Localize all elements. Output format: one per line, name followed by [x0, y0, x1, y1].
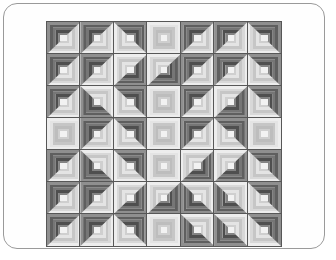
quilt-block-center [127, 99, 134, 105]
quilt-block-center [194, 195, 201, 201]
quilt-block-center [60, 99, 67, 105]
quilt-block [80, 54, 113, 86]
quilt-block [80, 182, 113, 214]
quilt-block [147, 54, 180, 86]
quilt-block-center [127, 195, 134, 201]
quilt-block-center [60, 35, 67, 41]
quilt-block-center [194, 67, 201, 73]
quilt-block [248, 118, 281, 150]
quilt-block-center [127, 35, 134, 41]
quilt-block [47, 86, 80, 118]
quilt-block [147, 150, 180, 182]
quilt-block [214, 182, 247, 214]
quilt-block-center [194, 163, 201, 169]
quilt-block [147, 214, 180, 246]
quilt-block-center [94, 131, 101, 137]
quilt-block-center [161, 227, 168, 233]
quilt-block-center [94, 163, 101, 169]
quilt-block [114, 54, 147, 86]
quilt-block [80, 150, 113, 182]
quilt-block-center [261, 163, 268, 169]
quilt-block-center [228, 195, 235, 201]
quilt-block-center [228, 163, 235, 169]
quilt-block [248, 150, 281, 182]
quilt-block [147, 86, 180, 118]
quilt-block [181, 54, 214, 86]
quilt-block-center [261, 35, 268, 41]
quilt-block [80, 86, 113, 118]
quilt-block-center [161, 99, 168, 105]
quilt-block [47, 54, 80, 86]
quilt-block-center [261, 99, 268, 105]
quilt-block-center [261, 67, 268, 73]
quilt-block-center [261, 131, 268, 137]
quilt-block-center [127, 227, 134, 233]
quilt-block [114, 182, 147, 214]
quilt-block [181, 118, 214, 150]
quilt-block [181, 150, 214, 182]
quilt-block [214, 22, 247, 54]
quilt-block-center [94, 67, 101, 73]
quilt-block [181, 182, 214, 214]
quilt-block [114, 86, 147, 118]
quilt-block [47, 22, 80, 54]
quilt-block-center [127, 163, 134, 169]
quilt-block [214, 150, 247, 182]
quilt-block [181, 214, 214, 246]
quilt-block-center [228, 99, 235, 105]
quilt-block [147, 22, 180, 54]
quilt-block-center [228, 35, 235, 41]
quilt-block-center [161, 35, 168, 41]
quilt-block-center [60, 131, 67, 137]
quilt-block-center [228, 131, 235, 137]
quilt-grid [47, 22, 281, 246]
quilt-block-center [94, 195, 101, 201]
quilt-block-center [261, 195, 268, 201]
quilt-block [114, 214, 147, 246]
quilt-block [214, 86, 247, 118]
quilt-block [80, 118, 113, 150]
quilt-block-center [94, 227, 101, 233]
quilt-block-center [194, 99, 201, 105]
quilt-block-center [161, 67, 168, 73]
quilt-block [114, 118, 147, 150]
quilt-block-center [60, 163, 67, 169]
quilt-block-center [127, 67, 134, 73]
quilt-block-center [161, 131, 168, 137]
quilt-block [181, 86, 214, 118]
quilt-block [147, 182, 180, 214]
quilt-block [248, 86, 281, 118]
quilt-block [214, 214, 247, 246]
quilt-block [114, 150, 147, 182]
quilt-block [47, 150, 80, 182]
quilt-block [181, 22, 214, 54]
quilt-block-center [161, 195, 168, 201]
quilt-block [248, 214, 281, 246]
quilt-block-center [194, 227, 201, 233]
quilt-block-center [228, 227, 235, 233]
image-card-frame [3, 3, 325, 249]
quilt-block [47, 182, 80, 214]
quilt-block-center [60, 67, 67, 73]
quilt-block-center [261, 227, 268, 233]
quilt-block-center [94, 35, 101, 41]
quilt-block [114, 22, 147, 54]
quilt-block [80, 22, 113, 54]
quilt-block [214, 118, 247, 150]
quilt-image-canvas [0, 0, 336, 260]
quilt-block-center [194, 131, 201, 137]
quilt-block [47, 118, 80, 150]
quilt-block-center [228, 67, 235, 73]
quilt-block [248, 182, 281, 214]
quilt-block [47, 214, 80, 246]
quilt-block-center [60, 195, 67, 201]
quilt-block [147, 118, 180, 150]
quilt-block-center [194, 35, 201, 41]
quilt-block-center [60, 227, 67, 233]
quilt-block-center [94, 99, 101, 105]
quilt-block [80, 214, 113, 246]
quilt-block [214, 54, 247, 86]
quilt-block-center [127, 131, 134, 137]
quilt-block [248, 22, 281, 54]
quilt-block [248, 54, 281, 86]
